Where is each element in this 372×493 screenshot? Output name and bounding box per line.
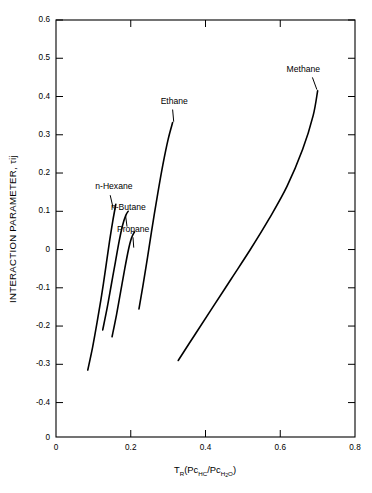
y-tick-label: -0.4 [36, 398, 51, 407]
y-tick-label: -0.3 [36, 359, 51, 368]
y-tick-label: 0.1 [39, 206, 51, 215]
x-title-close: ) [233, 464, 236, 475]
x-axis-ticks [131, 20, 281, 437]
curve-ethane [139, 123, 173, 309]
x-tick-label: 0.4 [200, 443, 212, 452]
ij-subscript: ij [7, 155, 18, 160]
leader-line-ethane [173, 110, 174, 122]
series-label-propane: Propane [117, 224, 150, 234]
y-tick-label: -0.1 [36, 283, 51, 292]
x-title-slash: /Pc [207, 464, 221, 475]
x-tick-label: 0 [54, 443, 59, 452]
series-label-n-butane: n-Butane [111, 202, 146, 212]
y-axis-origin-label: 0 [45, 433, 50, 442]
y-tick-label: 0.6 [39, 15, 51, 24]
leader-line-methane [312, 77, 316, 89]
y-axis-title-text: INTERACTION PARAMETER, [7, 164, 18, 303]
x-tick-label: 0.8 [349, 443, 361, 452]
y-tick-label: 0 [45, 245, 50, 254]
series-label-n-hexane: n-Hexane [95, 181, 132, 191]
x-tick-label: 0.2 [125, 443, 137, 452]
svg-text:INTERACTION PARAMETER, τij: INTERACTION PARAMETER, τij [7, 155, 18, 303]
y-axis-ticks [56, 20, 355, 403]
curve-propane [112, 232, 134, 337]
y-axis-tick-labels: 0.60.50.40.30.20.10-0.1-0.2-0.3-0.4 [36, 15, 51, 407]
x-title-open: (Pc [184, 464, 198, 475]
y-tick-label: 0.2 [39, 168, 51, 177]
curve-methane [178, 91, 317, 361]
interaction-parameter-plot: 0.60.50.40.30.20.10-0.1-0.2-0.3-0.4 00.2… [0, 0, 372, 493]
chart-container: 0.60.50.40.30.20.10-0.1-0.2-0.3-0.4 00.2… [0, 0, 372, 493]
leader-line-propane [133, 237, 134, 247]
x-axis-title: TR(PcHC/PcH2O) [174, 464, 236, 478]
y-axis-title: INTERACTION PARAMETER, τij [7, 155, 18, 303]
y-tick-label: 0.5 [39, 53, 51, 62]
plot-frame [56, 20, 355, 437]
series-label-methane: Methane [287, 64, 321, 74]
y-tick-label: -0.2 [36, 321, 51, 330]
series-labels: n-Hexanen-ButanePropaneEthaneMethane [95, 64, 320, 234]
svg-text:TR(PcHC/PcH2O): TR(PcHC/PcH2O) [174, 464, 236, 478]
series-label-ethane: Ethane [161, 96, 188, 106]
y-tick-label: 0.3 [39, 130, 51, 139]
series-leader-lines [110, 77, 317, 247]
x-axis-tick-labels: 00.20.40.60.8 [54, 443, 361, 452]
y-tick-label: 0.4 [39, 92, 51, 101]
x-tick-label: 0.6 [275, 443, 287, 452]
